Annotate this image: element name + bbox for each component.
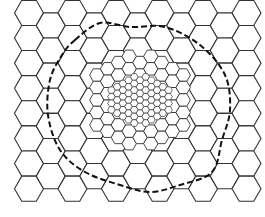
hex-cell	[165, 100, 173, 107]
hex-cell	[176, 69, 190, 81]
hex-cell	[176, 94, 190, 106]
hex-cell	[176, 119, 190, 131]
hex-cell	[165, 93, 173, 100]
mesh-canvas	[0, 0, 265, 217]
hex-mesh-diagram	[0, 0, 265, 217]
hex-cell	[176, 81, 190, 93]
hex-cell	[165, 107, 173, 114]
hex-cell	[176, 106, 190, 118]
hex-cell	[165, 87, 173, 94]
